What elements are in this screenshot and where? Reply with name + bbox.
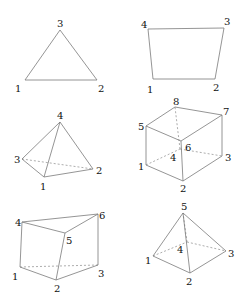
node-label-3: 3 <box>225 152 231 163</box>
figure-hexahedron: 12345678 <box>138 96 231 194</box>
edge-1-2 <box>20 267 56 280</box>
edge-5-6 <box>146 126 181 141</box>
figure-pyramid: 12345 <box>145 201 234 287</box>
edge-5-2 <box>56 233 65 280</box>
edge-2-3 <box>190 251 226 273</box>
edge-6-7 <box>181 115 222 141</box>
edge-3-1 <box>22 159 44 177</box>
edge-8-5 <box>146 107 175 126</box>
node-label-2: 2 <box>213 82 219 93</box>
node-label-7: 7 <box>223 106 229 117</box>
diagram-svg: 123123412341234567812345612345 <box>0 0 246 303</box>
node-label-1: 1 <box>138 161 144 172</box>
edge-2-3 <box>183 156 222 181</box>
node-label-3: 3 <box>98 268 104 279</box>
edge-2-3 <box>215 28 224 79</box>
node-label-2: 2 <box>54 283 60 294</box>
node-label-2: 2 <box>180 183 186 194</box>
figure-quadrilateral: 1234 <box>141 16 230 95</box>
hidden-edge-4-3 <box>187 242 226 251</box>
node-label-4: 4 <box>141 19 147 30</box>
edge-4-1 <box>20 222 22 267</box>
edge-3-1 <box>25 30 60 80</box>
node-label-6: 6 <box>185 142 191 153</box>
node-label-1: 1 <box>40 181 46 192</box>
node-label-5: 5 <box>138 121 144 132</box>
figure-prism: 123456 <box>12 210 105 294</box>
node-label-2: 2 <box>96 165 102 176</box>
node-label-6: 6 <box>99 210 105 221</box>
node-label-3: 3 <box>224 16 230 27</box>
element-shapes-diagram: 123123412341234567812345612345 <box>0 0 246 303</box>
edge-2-3 <box>60 30 97 80</box>
node-label-4: 4 <box>170 152 176 163</box>
node-label-5: 5 <box>181 201 187 212</box>
edge-4-5 <box>22 222 65 233</box>
edge-1-2 <box>44 169 93 177</box>
node-label-4: 4 <box>57 110 63 121</box>
edge-3-4 <box>148 28 224 29</box>
figure-tetrahedron: 1234 <box>14 110 102 192</box>
figure-triangle: 123 <box>15 18 104 94</box>
edge-4-1 <box>148 29 153 79</box>
node-label-3: 3 <box>57 18 63 29</box>
node-label-3: 3 <box>228 248 234 259</box>
edge-1-2 <box>146 165 183 181</box>
edge-2-4 <box>60 122 93 169</box>
edge-3-5 <box>183 213 226 251</box>
hidden-edge-4-8 <box>175 107 180 149</box>
node-label-1: 1 <box>15 83 21 94</box>
node-label-1: 1 <box>147 84 153 95</box>
edge-6-2 <box>181 141 183 181</box>
node-label-2: 2 <box>98 83 104 94</box>
node-label-4: 4 <box>15 217 21 228</box>
node-label-1: 1 <box>12 271 18 282</box>
node-label-5: 5 <box>66 235 72 246</box>
edge-1-2 <box>153 256 190 273</box>
node-label-1: 1 <box>145 255 151 266</box>
edge-2-3 <box>56 265 98 280</box>
node-label-2: 2 <box>186 276 192 287</box>
node-label-4: 4 <box>177 244 183 255</box>
edge-7-8 <box>175 107 222 115</box>
node-label-8: 8 <box>173 96 179 107</box>
node-label-3: 3 <box>14 154 20 165</box>
